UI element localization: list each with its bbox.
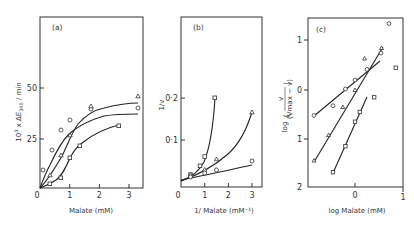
- panel-c-label: (c): [316, 25, 326, 34]
- data-point-circle: [189, 175, 193, 179]
- data-point-triangle: [59, 153, 63, 157]
- data-point-circle: [344, 87, 348, 91]
- y-tick-label: 25: [27, 135, 37, 144]
- y-axis-label: 103 x ΔE340 / min: [13, 82, 24, 141]
- svg-text:log: log: [281, 122, 289, 133]
- data-point-square: [358, 110, 361, 113]
- data-point-triangle: [363, 57, 367, 61]
- x-tick-label: 1: [202, 191, 207, 200]
- y-tick-label: 0: [297, 86, 302, 95]
- x-axis-label: log Malate (mM): [328, 207, 385, 215]
- data-point-triangle: [353, 88, 357, 92]
- data-point-square: [203, 155, 207, 159]
- curve-square: [40, 125, 119, 188]
- data-point-circle: [68, 118, 72, 122]
- panel-c: (c) 0 1 1 0 1̄ 2̄ log Malate (mM) log [ …: [277, 18, 406, 215]
- curve-square: [181, 98, 215, 181]
- data-point-circle: [59, 128, 63, 132]
- data-point-circle: [331, 104, 335, 108]
- data-point-circle: [387, 22, 391, 26]
- data-point-circle: [353, 78, 357, 82]
- x-axis-label: 1/ Malate (mM⁻¹): [194, 207, 254, 215]
- x-tick-label: 0: [175, 191, 180, 200]
- data-point-circle: [136, 106, 140, 110]
- y-tick-label: 1: [297, 36, 302, 45]
- data-point-square: [394, 66, 397, 69]
- y-axis-label: 1/v: [158, 100, 166, 111]
- data-point-square: [68, 156, 72, 160]
- data-point-square: [117, 124, 121, 128]
- data-point-square: [198, 164, 202, 168]
- data-point-square: [48, 182, 52, 186]
- data-point-triangle: [68, 133, 72, 137]
- data-point-square: [59, 176, 63, 180]
- data-point-square: [213, 96, 217, 100]
- y-tick-label: 1̄: [297, 135, 302, 144]
- panel-c-frame: [308, 18, 403, 187]
- data-point-circle: [365, 68, 369, 72]
- fit-line-triangle: [314, 47, 383, 162]
- panel-b-label: (b): [193, 23, 204, 32]
- data-point-circle: [215, 168, 219, 172]
- data-point-triangle: [380, 46, 384, 50]
- panel-a: (a) 0 1 2 3 50 25 Malate (mM) 103 x ΔE34…: [13, 17, 143, 215]
- x-tick-label: 1: [67, 191, 72, 200]
- y-tick-label: 2̄: [297, 183, 302, 192]
- x-tick-label: 3: [249, 191, 254, 200]
- data-point-triangle: [250, 110, 254, 114]
- data-point-square: [353, 120, 356, 123]
- x-axis-label: Malate (mM): [69, 207, 113, 215]
- x-tick-label: 0: [34, 191, 39, 200]
- data-point-triangle: [214, 157, 218, 161]
- curve-triangle: [40, 103, 138, 188]
- panel-a-label: (a): [52, 23, 63, 32]
- data-point-triangle: [341, 105, 345, 109]
- svg-text:v: v: [277, 97, 285, 101]
- data-point-triangle: [327, 133, 331, 137]
- x-tick-label: 3: [126, 191, 131, 200]
- data-point-circle: [50, 148, 54, 152]
- y-tick-label: 0·1: [165, 136, 178, 145]
- x-tick-label: 2: [226, 191, 231, 200]
- data-point-square: [331, 171, 334, 174]
- fit-line-square: [333, 97, 367, 173]
- data-point-circle: [41, 168, 45, 172]
- data-point-triangle: [89, 104, 93, 108]
- panel-a-frame: [40, 17, 143, 188]
- y-tick-label: 50: [27, 84, 37, 93]
- x-tick-label: 1: [400, 193, 405, 202]
- figure: (a) 0 1 2 3 50 25 Malate (mM) 103 x ΔE34…: [0, 0, 414, 229]
- data-point-circle: [250, 159, 254, 163]
- data-point-circle: [312, 114, 316, 118]
- data-point-square: [78, 144, 82, 148]
- data-point-circle: [203, 171, 207, 175]
- y-axis-label: log [ v (Vmax − v) ]: [277, 79, 294, 133]
- curve-circle: [40, 114, 138, 188]
- data-point-square: [344, 145, 347, 148]
- data-point-square: [373, 96, 376, 99]
- y-tick-label: 0·2: [165, 94, 178, 103]
- data-point-circle: [379, 51, 383, 55]
- panel-b: (b) 0 1 2 3 0·2 0·1 1/ Malate (mM⁻¹) 1/v: [158, 17, 262, 215]
- x-tick-label: 0: [352, 191, 357, 200]
- svg-text:]: ]: [283, 82, 291, 85]
- data-point-triangle: [136, 94, 140, 98]
- x-tick-label: 2: [97, 191, 102, 200]
